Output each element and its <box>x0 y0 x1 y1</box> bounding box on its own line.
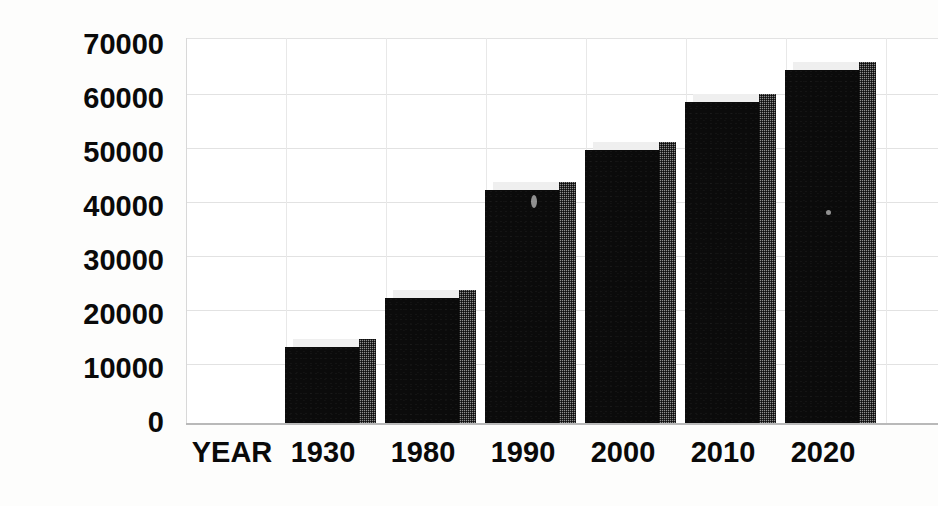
bar-front-face <box>685 102 759 424</box>
x-tick-label: 1980 <box>391 437 456 467</box>
x-tick-label: 1930 <box>291 437 356 467</box>
y-tick-label: 60000 <box>83 84 164 113</box>
bar-side-face <box>359 339 376 424</box>
bar-side-face <box>459 290 476 424</box>
x-axis-title: YEAR <box>192 437 273 467</box>
x-tick-label: 2010 <box>691 437 756 467</box>
plot-area <box>186 38 938 424</box>
bar-side-face <box>659 142 676 424</box>
bar-1990 <box>485 190 559 424</box>
bar-side-face <box>759 94 776 424</box>
bar-1930 <box>285 347 359 424</box>
bar-2020 <box>785 70 859 424</box>
x-tick-label: 1990 <box>491 437 556 467</box>
gridline-vertical <box>886 38 887 424</box>
bar-1980 <box>385 298 459 424</box>
x-axis: YEAR 1930 1980 1990 2000 2010 2020 <box>0 437 938 483</box>
bar-front-face <box>485 190 559 424</box>
y-tick-label: 10000 <box>83 354 164 383</box>
gridline-horizontal <box>186 38 938 39</box>
x-axis-line <box>186 423 938 425</box>
y-axis-line <box>186 38 187 424</box>
y-tick-label: 70000 <box>83 30 164 59</box>
bar-front-face <box>385 298 459 424</box>
y-tick-label: 30000 <box>83 246 164 275</box>
bar-side-face <box>559 182 576 424</box>
bar-chart-figure: 70000 60000 50000 40000 30000 20000 1000… <box>0 0 938 506</box>
bar-2010 <box>685 102 759 424</box>
y-axis: 70000 60000 50000 40000 30000 20000 1000… <box>0 0 178 460</box>
x-tick-label: 2000 <box>591 437 656 467</box>
y-tick-label: 50000 <box>83 138 164 167</box>
bar-side-face <box>859 62 876 424</box>
y-tick-label: 20000 <box>83 300 164 329</box>
bar-front-face <box>285 347 359 424</box>
bar-front-face <box>785 70 859 424</box>
bar-2000 <box>585 150 659 424</box>
y-tick-label: 40000 <box>83 192 164 221</box>
x-tick-label: 2020 <box>791 437 856 467</box>
y-tick-label: 0 <box>148 408 164 437</box>
bar-front-face <box>585 150 659 424</box>
